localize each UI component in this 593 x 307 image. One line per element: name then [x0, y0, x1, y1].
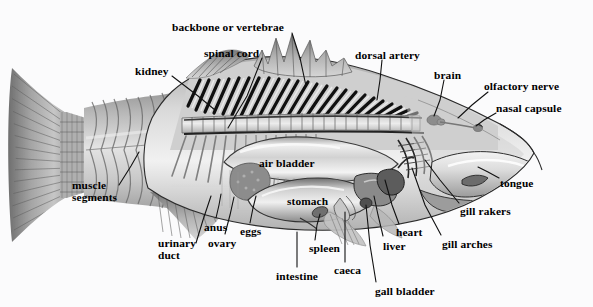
label-dorsal-artery: dorsal artery — [355, 50, 420, 62]
label-tongue: tongue — [500, 178, 534, 190]
label-heart: heart — [396, 227, 422, 239]
label-gall-bladder: gall bladder — [375, 286, 435, 298]
fish-illustration — [0, 0, 593, 307]
label-stomach: stomach — [287, 196, 328, 208]
label-ovary: ovary — [208, 238, 236, 250]
label-backbone: backbone or vertebrae — [172, 22, 284, 34]
label-air-bladder: air bladder — [259, 158, 315, 170]
label-anus: anus — [204, 222, 227, 234]
label-nasal-capsule: nasal capsule — [496, 103, 562, 115]
label-liver: liver — [383, 241, 406, 253]
label-gill-arches: gill arches — [442, 239, 493, 251]
label-intestine: intestine — [276, 271, 318, 283]
label-kidney: kidney — [135, 66, 169, 78]
label-brain: brain — [434, 70, 461, 82]
label-spinal-cord: spinal cord — [204, 48, 259, 60]
label-caeca: caeca — [334, 265, 361, 277]
label-gill-rakers: gill rakers — [460, 206, 511, 218]
label-spleen: spleen — [309, 243, 340, 255]
label-urinary-duct: urinary duct — [158, 238, 196, 261]
fish-anatomy-diagram: backbone or vertebraespinal cordkidneydo… — [0, 0, 593, 307]
label-olfactory-nerve: olfactory nerve — [484, 81, 559, 93]
label-muscle-segments: muscle segments — [72, 180, 117, 203]
label-eggs: eggs — [240, 226, 261, 238]
